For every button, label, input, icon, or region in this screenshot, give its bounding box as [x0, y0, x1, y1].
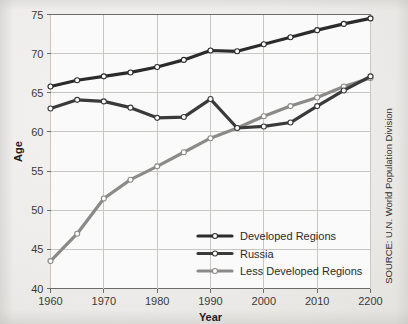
y-axis-title: Age — [12, 141, 24, 162]
legend-swatch-marker — [213, 251, 218, 256]
x-axis-tick-label: 2200 — [358, 295, 382, 307]
data-point-marker — [315, 28, 320, 33]
y-axis-tick-label: 70 — [31, 48, 43, 60]
data-point-marker — [341, 88, 346, 93]
data-point-marker — [288, 120, 293, 125]
data-point-marker — [315, 95, 320, 100]
data-point-marker — [48, 259, 53, 264]
data-point-marker — [208, 97, 213, 102]
legend-item-label: Russia — [240, 248, 275, 260]
data-point-marker — [315, 104, 320, 109]
data-point-marker — [208, 48, 213, 53]
x-axis-tick-label: 2010 — [305, 295, 329, 307]
legend-swatch-marker — [213, 234, 218, 239]
data-point-marker — [101, 99, 106, 104]
legend-item-label: Less Developed Regions — [240, 265, 363, 277]
data-point-marker — [261, 124, 266, 129]
y-axis-tick-label: 45 — [31, 243, 43, 255]
data-point-marker — [288, 104, 293, 109]
data-point-marker — [235, 49, 240, 54]
life-expectancy-line-chart: 4045505560657075196019701980199020002010… — [0, 0, 408, 324]
data-point-marker — [128, 177, 133, 182]
chart-canvas: 4045505560657075196019701980199020002010… — [0, 0, 408, 324]
data-point-marker — [368, 74, 373, 79]
data-point-marker — [235, 126, 240, 131]
data-point-marker — [288, 35, 293, 40]
legend-item-label: Developed Regions — [240, 230, 337, 242]
data-point-marker — [181, 57, 186, 62]
data-point-marker — [208, 136, 213, 141]
x-axis-tick-label: 1970 — [92, 295, 116, 307]
y-axis-tick-label: 50 — [31, 204, 43, 216]
data-point-marker — [48, 106, 53, 111]
legend-swatch-marker — [213, 269, 218, 274]
data-point-marker — [75, 78, 80, 83]
x-axis-tick-label: 1960 — [38, 295, 62, 307]
y-axis-tick-label: 40 — [31, 283, 43, 295]
data-point-marker — [368, 16, 373, 21]
data-point-marker — [101, 74, 106, 79]
x-axis-title: Year — [199, 311, 223, 323]
data-point-marker — [128, 105, 133, 110]
data-point-marker — [181, 150, 186, 155]
data-point-marker — [181, 115, 186, 120]
y-axis-tick-label: 60 — [31, 126, 43, 138]
data-point-marker — [261, 42, 266, 47]
source-credit: SOURCE: U.N. World Population Division — [383, 108, 394, 284]
y-axis-tick-label: 75 — [31, 9, 43, 21]
data-point-marker — [155, 64, 160, 69]
data-point-marker — [155, 115, 160, 120]
data-point-marker — [155, 164, 160, 169]
data-point-marker — [75, 97, 80, 102]
x-axis-tick-label: 1990 — [198, 295, 222, 307]
data-point-marker — [341, 21, 346, 26]
data-point-marker — [128, 70, 133, 75]
data-point-marker — [48, 84, 53, 89]
data-point-marker — [261, 114, 266, 119]
data-point-marker — [101, 196, 106, 201]
x-axis-tick-label: 1980 — [145, 295, 169, 307]
x-axis-tick-label: 2000 — [252, 295, 276, 307]
data-point-marker — [75, 231, 80, 236]
y-axis-tick-label: 55 — [31, 165, 43, 177]
y-axis-tick-label: 65 — [31, 87, 43, 99]
